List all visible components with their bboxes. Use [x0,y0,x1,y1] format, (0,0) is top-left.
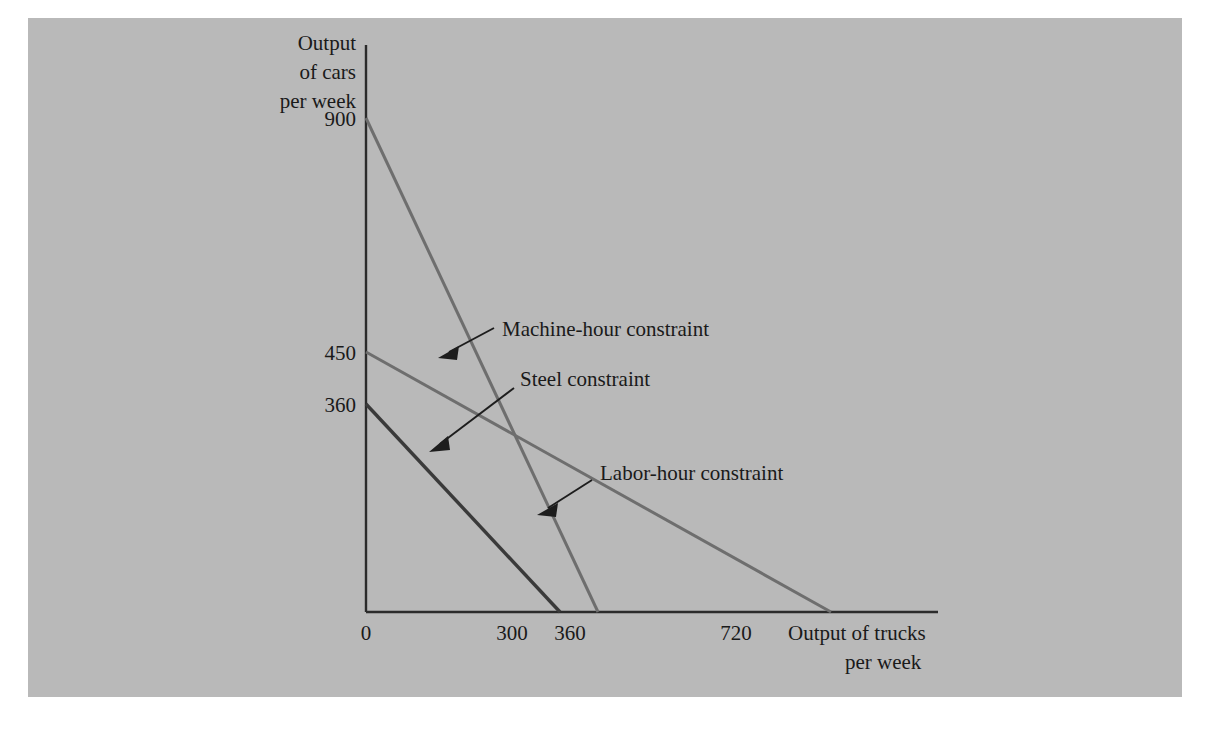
y-axis-title-line1: Output [298,31,357,55]
annotation-machine-hour: Machine-hour constraint [438,317,709,360]
x-tick-label-360: 360 [554,621,586,645]
y-axis-title-line2: of cars [299,60,356,84]
machine-hour-constraint-label: Machine-hour constraint [502,317,709,341]
steel-arrow-shaft [440,388,514,444]
x-tick-labels: 0 300 360 720 [361,621,752,645]
annotation-steel: Steel constraint [429,367,650,452]
figure-panel: 900 450 360 0 300 360 720 Output of cars… [28,18,1182,697]
y-tick-label-360: 360 [325,393,357,417]
x-tick-label-720: 720 [720,621,752,645]
x-tick-label-0: 0 [361,621,372,645]
labor-hour-constraint-label: Labor-hour constraint [600,461,783,485]
y-tick-labels: 900 450 360 [325,107,357,417]
steel-constraint-line [366,404,560,612]
y-tick-label-450: 450 [325,341,357,365]
y-axis-title: Output of cars per week [280,31,357,113]
steel-arrow-head [429,436,450,452]
x-axis-title: Output of trucks per week [788,621,926,674]
steel-constraint-label: Steel constraint [520,367,650,391]
y-axis-title-line3: per week [280,89,357,113]
labor-hour-arrow-shaft [548,480,592,508]
x-tick-label-300: 300 [496,621,528,645]
machine-hour-constraint-line [366,118,598,612]
machine-hour-arrow-head [438,346,459,360]
constraint-lines [366,118,831,612]
x-axis-title-line1: Output of trucks [788,621,926,645]
constraint-chart: 900 450 360 0 300 360 720 Output of cars… [28,18,1182,697]
x-axis-title-line2: per week [845,650,922,674]
